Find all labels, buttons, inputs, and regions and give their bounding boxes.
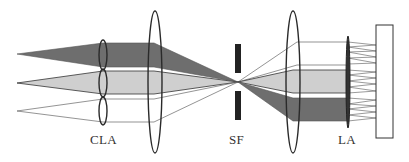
label-sf: SF xyxy=(229,132,244,148)
lens-array xyxy=(346,36,350,128)
target-screen xyxy=(376,25,393,138)
label-cla: CLA xyxy=(90,132,117,148)
lenslet-rays xyxy=(348,42,376,121)
optical-diagram: CLA SF LA xyxy=(0,0,409,162)
label-la: LA xyxy=(338,132,356,148)
